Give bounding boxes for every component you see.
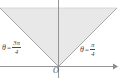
fraction-3pi-over-4: 3π 4 (12, 40, 21, 57)
fraction-numerator-left: 3π (12, 40, 21, 47)
polar-region-figure: θ= 3π 4 θ= π 4 O (0, 0, 119, 81)
label-theta-3pi-over-4: θ= 3π 4 (2, 40, 21, 57)
label-theta-pi-over-4: θ= π 4 (80, 42, 95, 59)
horizontal-axis-arrow-icon (113, 64, 118, 70)
origin-label: O (53, 67, 59, 75)
fraction-denominator-right: 4 (90, 51, 96, 58)
fraction-pi-over-4: π 4 (90, 42, 96, 59)
fraction-numerator-right: π (90, 42, 96, 49)
fraction-denominator-left: 4 (12, 49, 21, 56)
